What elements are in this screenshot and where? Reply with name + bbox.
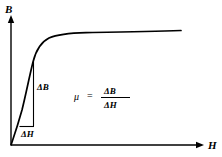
bh-curve-figure: B H ΔB ΔH μ = ΔB ΔH bbox=[0, 0, 222, 157]
equals-sign: = bbox=[87, 90, 93, 101]
equation-numerator: ΔB bbox=[103, 86, 116, 96]
delta-b-label: ΔB bbox=[36, 82, 49, 92]
equation-denominator: ΔH bbox=[103, 100, 118, 110]
y-axis bbox=[8, 15, 14, 145]
mu-symbol: μ bbox=[73, 91, 79, 102]
delta-h-label: ΔH bbox=[20, 129, 35, 139]
x-axis-label: H bbox=[207, 139, 217, 151]
permeability-equation: μ = ΔB ΔH bbox=[73, 86, 130, 110]
y-axis-label: B bbox=[4, 3, 12, 15]
x-axis bbox=[11, 142, 204, 148]
